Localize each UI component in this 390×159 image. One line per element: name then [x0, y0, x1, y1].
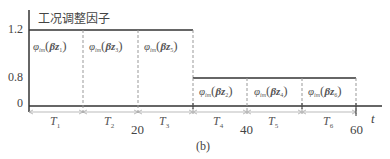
segment-label-3: φim(βz5) — [144, 39, 178, 53]
period-label-t5: T5 — [268, 115, 278, 130]
segment-label-2: φim(βz3) — [89, 39, 123, 53]
x-tick-60: 60 — [350, 123, 363, 136]
y-tick-1-2: 1.2 — [8, 23, 23, 35]
y-tick-0: 0 — [17, 97, 23, 109]
segment-label-6: φim(βz6) — [308, 84, 342, 98]
segment-label-5: φim(βz4) — [254, 84, 288, 98]
x-tick-40: 40 — [240, 123, 253, 136]
period-label-t2: T2 — [104, 115, 114, 130]
period-label-t1: T1 — [50, 115, 60, 130]
period-label-t6: T6 — [323, 115, 333, 130]
segment-dividers — [83, 30, 356, 114]
period-label-t4: T4 — [213, 115, 223, 130]
period-label-t3: T3 — [159, 115, 169, 130]
segment-label-1: φim(βz1) — [33, 39, 67, 53]
segment-label-4: φim(βz2) — [199, 84, 233, 98]
x-axis-label: t — [371, 112, 375, 125]
y-tick-0-8: 0.8 — [8, 71, 23, 83]
x-tick-20: 20 — [131, 123, 144, 136]
figure-caption: (b) — [196, 140, 210, 152]
y-axis-title: 工况调整因子 — [38, 9, 110, 26]
